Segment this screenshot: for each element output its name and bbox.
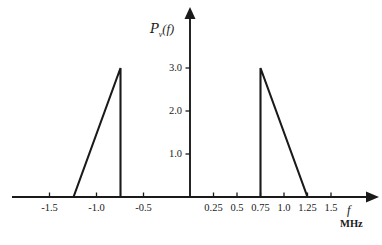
series-positive-frequency-lobe xyxy=(191,68,366,197)
y-tick-label: 3.0 xyxy=(160,63,182,74)
x-tick-label: 1.25 xyxy=(298,203,316,214)
x-tick-label: 1.0 xyxy=(277,203,290,214)
y-tick-label: 1.0 xyxy=(160,149,182,160)
x-tick-label: -1.0 xyxy=(88,203,105,214)
x-axis-title: f xyxy=(347,204,350,217)
series-negative-frequency-lobe xyxy=(13,68,189,197)
x-axis-arrow-icon xyxy=(366,192,379,203)
x-tick-label: -1.5 xyxy=(41,203,58,214)
spectrum-chart-figure: Pv(f) f MHz 3.0 2.0 1.0 -1.5 -1.0 -0.5 0… xyxy=(0,0,382,245)
y-tick-label: 2.0 xyxy=(160,106,182,117)
y-axis-symbol: P xyxy=(150,21,159,36)
x-tick-label: -0.5 xyxy=(135,203,152,214)
x-tick-label: 0.5 xyxy=(230,203,243,214)
x-axis-unit-label: MHz xyxy=(340,219,363,230)
x-tick-label: 1.5 xyxy=(324,203,337,214)
y-axis-title: Pv(f) xyxy=(150,22,174,39)
x-tick-label: 0.25 xyxy=(204,203,222,214)
x-tick-label: 0.75 xyxy=(251,203,269,214)
y-axis-arrow-icon xyxy=(185,7,196,19)
y-axis-argument: (f) xyxy=(162,22,174,36)
